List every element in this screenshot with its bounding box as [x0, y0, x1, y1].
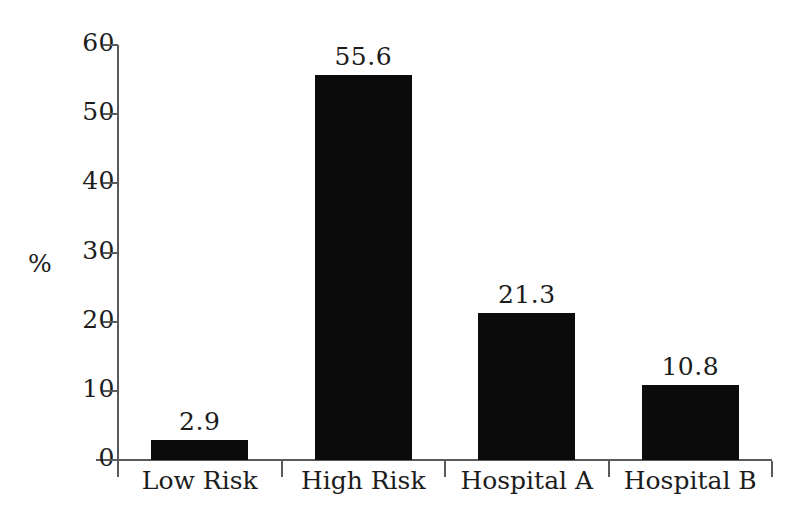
y-axis-tick-label: 50	[18, 97, 118, 126]
y-axis-tick-label: 0	[18, 443, 118, 472]
x-axis-category-label: High Risk	[282, 466, 446, 495]
bar-value-label: 55.6	[282, 42, 446, 71]
y-axis-tick-mark	[103, 321, 118, 323]
bar	[478, 313, 575, 460]
bar-value-label: 10.8	[609, 352, 773, 381]
y-axis-tick-label: 10	[18, 374, 118, 403]
bar-value-label: 2.9	[118, 407, 282, 436]
y-axis-tick-label: 30	[18, 236, 118, 265]
bar-chart: % 0102030405060 2.9Low Risk55.6High Risk…	[0, 0, 804, 521]
y-axis-tick-mark	[103, 459, 118, 461]
bar	[315, 75, 412, 460]
y-axis-tick-label: 20	[18, 305, 118, 334]
y-axis-tick-mark	[103, 390, 118, 392]
y-axis-tick-mark	[103, 252, 118, 254]
y-axis-tick-mark	[103, 44, 118, 46]
x-axis-category-label: Hospital A	[445, 466, 609, 495]
y-axis-tick-label: 60	[18, 28, 118, 57]
bar-value-label: 21.3	[445, 280, 609, 309]
y-axis-tick-mark	[103, 182, 118, 184]
x-axis-category-label: Hospital B	[609, 466, 773, 495]
y-axis-tick-label: 40	[18, 166, 118, 195]
x-axis-category-label: Low Risk	[118, 466, 282, 495]
bar	[642, 385, 739, 460]
bar	[151, 440, 248, 460]
y-axis-tick-mark	[103, 113, 118, 115]
